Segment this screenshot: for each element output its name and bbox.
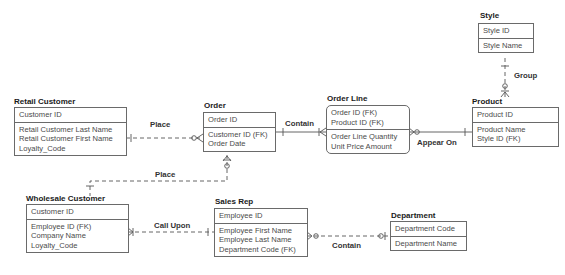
entity-order[interactable]: Order ID Customer ID (FK) Order Date (203, 112, 276, 152)
entity-department-title: Department (391, 211, 435, 220)
entity-order-line-attributes: Order Line Quantity Unit Price Amount (327, 130, 409, 153)
entity-wholesale-customer-attributes: Employee ID (FK) Company Name Loyalty_Co… (27, 220, 128, 253)
entity-product-keys: Product ID (473, 108, 558, 123)
relationship-group-line (501, 58, 509, 97)
relationship-label-appear-on: Appear On (417, 138, 457, 147)
attribute: Order ID (208, 115, 271, 125)
attribute: Company Name (31, 231, 124, 241)
entity-wholesale-customer[interactable]: Customer ID Employee ID (FK) Company Nam… (26, 204, 129, 253)
entity-order-keys: Order ID (204, 113, 275, 128)
attribute: Customer ID (31, 207, 124, 217)
entity-retail-customer-attributes: Retail Customer Last Name Retail Custome… (15, 123, 126, 156)
attribute: Customer ID (19, 110, 122, 120)
relationship-label-place-retail: Place (150, 120, 170, 129)
entity-sales-rep-title: Sales Rep (215, 197, 253, 206)
entity-wholesale-customer-title: Wholesale Customer (26, 194, 105, 203)
attribute: Retail Customer Last Name (19, 125, 122, 135)
relationship-place-retail-line (126, 134, 203, 142)
attribute: Loyalty_Code (31, 241, 124, 251)
entity-order-title: Order (204, 101, 226, 110)
attribute: Product ID (FK) (331, 118, 405, 128)
entity-retail-customer-title: Retail Customer (14, 97, 75, 106)
entity-product[interactable]: Product ID Product Name Style ID (FK) (472, 107, 559, 147)
attribute: Employee ID (219, 211, 303, 221)
attribute: Employee First Name (219, 226, 303, 236)
entity-department-keys: Department Code (391, 222, 466, 237)
relationship-contain-order-line (275, 128, 326, 136)
attribute: Retail Customer First Name (19, 134, 122, 144)
entity-department-attributes: Department Name (391, 237, 466, 251)
attribute: Order Line Quantity (331, 132, 405, 142)
entity-product-attributes: Product Name Style ID (FK) (473, 123, 558, 146)
entity-style-keys: Style ID (479, 24, 533, 39)
entity-order-attributes: Customer ID (FK) Order Date (204, 128, 275, 151)
relationship-label-contain-order: Contain (285, 119, 314, 128)
attribute: Style ID (483, 26, 529, 36)
entity-retail-customer-keys: Customer ID (15, 108, 126, 123)
entity-product-title: Product (472, 97, 502, 106)
attribute: Department Code (FK) (219, 245, 303, 255)
relationship-contain-department-line (307, 232, 390, 240)
attribute: Product ID (477, 110, 554, 120)
attribute: Style Name (483, 41, 529, 51)
entity-style-title: Style (480, 11, 499, 20)
attribute: Department Name (395, 239, 462, 249)
entity-style-attributes: Style Name (479, 39, 533, 53)
entity-order-line[interactable]: Order ID (FK) Product ID (FK) Order Line… (326, 105, 410, 154)
entity-order-line-title: Order Line (327, 94, 367, 103)
relationship-label-place-wholesale: Place (155, 170, 175, 179)
entity-wholesale-customer-keys: Customer ID (27, 205, 128, 220)
attribute: Employee Last Name (219, 235, 303, 245)
attribute: Employee ID (FK) (31, 222, 124, 232)
entity-sales-rep[interactable]: Employee ID Employee First Name Employee… (214, 208, 308, 257)
relationship-label-contain-department: Contain (332, 241, 361, 250)
attribute: Loyalty_Code (19, 144, 122, 154)
entity-retail-customer[interactable]: Customer ID Retail Customer Last Name Re… (14, 107, 127, 156)
attribute: Product Name (477, 125, 554, 135)
entity-order-line-keys: Order ID (FK) Product ID (FK) (327, 106, 409, 130)
entity-department[interactable]: Department Code Department Name (390, 221, 467, 251)
attribute: Customer ID (FK) (208, 130, 271, 140)
relationship-appear-on-line (409, 128, 472, 136)
attribute: Order ID (FK) (331, 108, 405, 118)
relationship-label-group: Group (514, 71, 537, 80)
attribute: Style ID (FK) (477, 134, 554, 144)
attribute: Unit Price Amount (331, 142, 405, 152)
entity-sales-rep-attributes: Employee First Name Employee Last Name D… (215, 224, 307, 257)
relationship-label-call-upon: Call Upon (154, 221, 190, 230)
entity-sales-rep-keys: Employee ID (215, 209, 307, 224)
entity-style[interactable]: Style ID Style Name (478, 23, 534, 53)
attribute: Department Code (395, 224, 462, 234)
attribute: Order Date (208, 139, 271, 149)
